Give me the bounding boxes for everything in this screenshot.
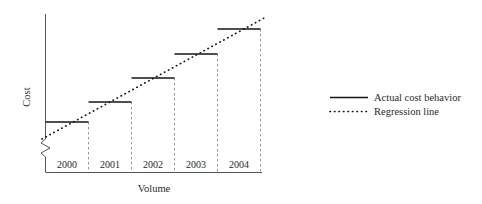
x-tick-label-2003: 2003	[186, 159, 206, 170]
legend-label-actual-cost-behavior: Actual cost behavior	[374, 92, 461, 103]
y-axis-title: Cost	[21, 87, 32, 106]
x-axis-title: Volume	[138, 183, 171, 194]
legend-label-regression-line: Regression line	[374, 106, 439, 117]
x-tick-label-2001: 2001	[100, 159, 120, 170]
x-tick-label-2002: 2002	[143, 159, 163, 170]
x-tick-label-2000: 2000	[57, 159, 77, 170]
cost-behavior-step-chart: Cost 2000 2001 2002 2003 2004 Volume Act…	[0, 0, 482, 204]
x-tick-label-2004: 2004	[229, 159, 249, 170]
